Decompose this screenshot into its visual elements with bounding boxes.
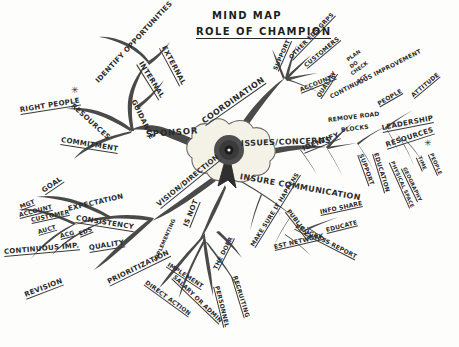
mind-map-branches [0, 0, 459, 347]
mind-map-canvas: MIND MAPROLE OF CHAMPIONIDENTIFY OPPORTU… [0, 0, 459, 347]
asterisk-marker-right: ✳ [424, 138, 432, 148]
asterisk-marker-left: ✳ [71, 85, 79, 95]
map-label-mind-map: MIND MAP [212, 10, 282, 21]
